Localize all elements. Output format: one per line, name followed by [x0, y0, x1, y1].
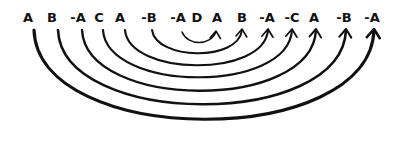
token-label: -A — [259, 10, 274, 25]
token-label: -A — [70, 10, 85, 25]
token-sequence: AB-ACA-B-ADAB-A-CA-B-A — [23, 10, 380, 25]
token-label: C — [94, 10, 104, 25]
token-label: A — [309, 10, 319, 25]
token-label: -A — [170, 10, 185, 25]
token-label: A — [212, 10, 222, 25]
token-label: -B — [141, 10, 156, 25]
pair-arc — [58, 30, 346, 104]
token-label: -C — [285, 10, 300, 25]
pairing-diagram: AB-ACA-B-ADAB-A-CA-B-A — [0, 0, 402, 167]
token-label: -B — [336, 10, 351, 25]
token-label: A — [115, 10, 125, 25]
token-label: -A — [364, 10, 379, 25]
token-label: B — [47, 10, 57, 25]
token-label: A — [23, 10, 33, 25]
token-label: B — [237, 10, 247, 25]
pair-arc — [82, 30, 316, 91]
token-label: D — [192, 10, 203, 25]
arc-group — [34, 29, 380, 119]
